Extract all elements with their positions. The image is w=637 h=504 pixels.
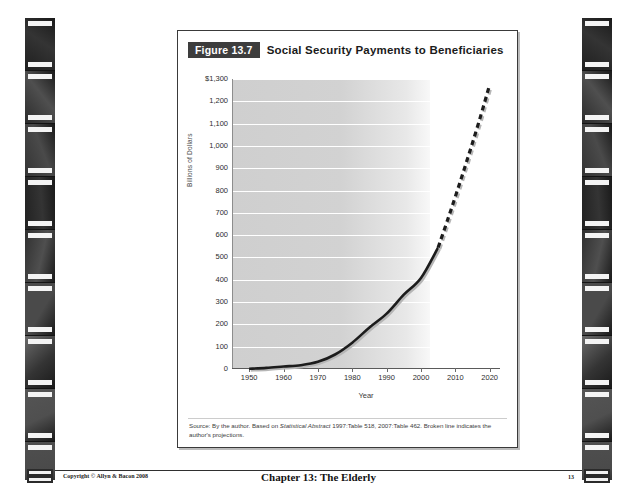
film-frame bbox=[582, 18, 612, 71]
y-tick-label: 700 bbox=[215, 209, 228, 217]
film-sprocket bbox=[585, 168, 609, 173]
x-tick-label: 2000 bbox=[404, 373, 438, 382]
series-lines bbox=[232, 79, 500, 369]
x-tick-label: 1980 bbox=[335, 373, 369, 382]
film-sprocket bbox=[28, 127, 52, 132]
x-tick-label: 1950 bbox=[232, 373, 266, 382]
plot-region bbox=[232, 79, 500, 369]
y-tick-label: 1,000 bbox=[209, 142, 228, 150]
x-tick-label: 2020 bbox=[473, 373, 507, 382]
film-sprocket bbox=[28, 392, 52, 397]
film-sprocket bbox=[28, 286, 52, 291]
page-title: Social Security Payments to Beneficiarie… bbox=[267, 44, 504, 56]
film-sprocket bbox=[28, 433, 52, 438]
film-sprocket bbox=[28, 180, 52, 185]
film-frame bbox=[25, 124, 55, 177]
film-sprocket bbox=[585, 433, 609, 438]
film-frame bbox=[25, 389, 55, 442]
film-sprocket bbox=[585, 180, 609, 185]
film-sprocket bbox=[585, 392, 609, 397]
x-tick-label: 1990 bbox=[370, 373, 404, 382]
footer-chapter-title: Chapter 13: The Elderly bbox=[25, 471, 612, 483]
film-sprocket bbox=[28, 339, 52, 344]
film-frame bbox=[25, 230, 55, 283]
y-tick-label: 900 bbox=[215, 164, 228, 172]
source-text-1: By the author. Based on bbox=[210, 422, 280, 429]
film-sprocket bbox=[28, 168, 52, 173]
film-sprocket bbox=[585, 380, 609, 385]
film-sprocket bbox=[28, 233, 52, 238]
film-sprocket bbox=[585, 74, 609, 79]
x-tick-label: 1960 bbox=[267, 373, 301, 382]
slide-content-panel: Figure 13.7Social Security Payments to B… bbox=[55, 18, 582, 480]
y-tick-label: 100 bbox=[215, 343, 228, 351]
footer-page-number: 13 bbox=[568, 474, 574, 480]
y-axis-ticks: $1,3001,2001,1001,0009008007006005004003… bbox=[188, 79, 228, 369]
figure-number-badge: Figure 13.7 bbox=[188, 42, 260, 58]
film-sprocket bbox=[28, 62, 52, 67]
film-sprocket bbox=[585, 327, 609, 332]
film-sprocket bbox=[28, 221, 52, 226]
source-divider bbox=[188, 418, 507, 419]
x-tick-label: 1970 bbox=[301, 373, 335, 382]
film-frame bbox=[582, 336, 612, 389]
filmstrip-right bbox=[582, 18, 612, 480]
actual-line bbox=[249, 247, 438, 368]
film-frame bbox=[25, 71, 55, 124]
x-axis-label: Year bbox=[232, 391, 500, 400]
figure-box: Figure 13.7Social Security Payments to B… bbox=[177, 30, 518, 448]
film-sprocket bbox=[585, 233, 609, 238]
film-sprocket bbox=[28, 21, 52, 26]
film-frame bbox=[582, 177, 612, 230]
y-tick-label: 300 bbox=[215, 298, 228, 306]
film-sprocket bbox=[585, 115, 609, 120]
slide-footer: Copyright © Allyn & Bacon 2008 Chapter 1… bbox=[25, 470, 612, 488]
film-sprocket bbox=[28, 327, 52, 332]
film-sprocket bbox=[585, 62, 609, 67]
y-tick-label: 800 bbox=[215, 187, 228, 195]
film-sprocket bbox=[585, 21, 609, 26]
y-tick-label: 600 bbox=[215, 231, 228, 239]
film-sprocket bbox=[28, 380, 52, 385]
film-sprocket bbox=[585, 286, 609, 291]
chart-area: Billions of Dollars $1,3001,2001,1001,00… bbox=[188, 79, 509, 414]
film-frame bbox=[25, 177, 55, 230]
source-italic-title: Statistical Abstract bbox=[280, 422, 331, 429]
film-sprocket bbox=[585, 127, 609, 132]
film-frame bbox=[25, 336, 55, 389]
y-tick-label: 1,100 bbox=[209, 120, 228, 128]
projection-line bbox=[438, 85, 490, 248]
x-tick-label: 2010 bbox=[438, 373, 472, 382]
y-tick-label: 0 bbox=[224, 365, 228, 373]
film-frame bbox=[582, 230, 612, 283]
film-sprocket bbox=[28, 115, 52, 120]
film-frame bbox=[25, 18, 55, 71]
film-frame bbox=[25, 283, 55, 336]
film-sprocket bbox=[28, 74, 52, 79]
film-frame bbox=[582, 124, 612, 177]
y-tick-label: 200 bbox=[215, 320, 228, 328]
film-sprocket bbox=[585, 221, 609, 226]
y-tick-label: 400 bbox=[215, 276, 228, 284]
film-sprocket bbox=[585, 339, 609, 344]
film-frame bbox=[582, 389, 612, 442]
source-note: Source: By the author. Based on Statisti… bbox=[189, 421, 506, 439]
figure-title-block: Figure 13.7Social Security Payments to B… bbox=[188, 40, 507, 58]
film-sprocket bbox=[585, 445, 609, 450]
film-sprocket bbox=[28, 274, 52, 279]
filmstrip-left bbox=[25, 18, 55, 480]
film-frame bbox=[582, 283, 612, 336]
y-tick-label: 500 bbox=[215, 253, 228, 261]
slide-root: Figure 13.7Social Security Payments to B… bbox=[0, 0, 637, 504]
source-prefix: Source: bbox=[189, 422, 210, 429]
film-frame bbox=[582, 71, 612, 124]
series-shadow bbox=[251, 249, 440, 370]
film-sprocket bbox=[28, 445, 52, 450]
film-sprocket bbox=[585, 274, 609, 279]
y-tick-label: 1,200 bbox=[209, 97, 228, 105]
y-tick-label: $1,300 bbox=[205, 75, 228, 83]
